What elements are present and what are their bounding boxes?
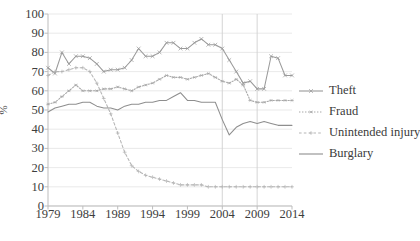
series-line	[48, 39, 292, 89]
x-axis-tick-label: 2009	[245, 208, 270, 221]
data-point-marker	[109, 88, 113, 91]
data-point-marker	[206, 185, 210, 189]
data-point-marker	[130, 58, 134, 62]
y-axis-tick-label: 70	[32, 65, 45, 78]
data-point-marker	[158, 177, 162, 181]
legend-swatch-plus-icon	[298, 127, 324, 139]
data-point-marker	[199, 74, 203, 77]
y-axis-tick-label: 40	[32, 123, 45, 136]
data-point-marker	[53, 101, 57, 104]
x-axis-tick-labels: 19791984198919941999200420092014	[48, 208, 292, 228]
data-point-marker	[234, 78, 238, 81]
data-point-marker	[193, 183, 197, 187]
data-point-marker	[255, 185, 259, 189]
data-point-marker	[74, 66, 78, 70]
x-axis-tick-label: 1999	[175, 208, 200, 221]
x-axis-tick-label: 1979	[36, 208, 61, 221]
data-point-marker	[144, 173, 148, 177]
x-axis-tick-label: 1984	[70, 208, 95, 221]
y-axis-tick-label: 30	[32, 142, 45, 155]
data-point-marker	[60, 70, 64, 74]
data-point-marker	[158, 78, 162, 81]
data-point-marker	[116, 131, 120, 135]
data-point-marker	[227, 58, 231, 62]
legend-swatch-asterisk-icon	[298, 106, 324, 118]
data-point-marker	[137, 47, 141, 51]
data-point-marker	[269, 185, 273, 189]
plot-area	[48, 14, 292, 206]
series-line	[48, 93, 292, 135]
data-point-marker	[283, 185, 287, 189]
data-point-marker	[95, 89, 99, 92]
y-axis-tick-label: 60	[32, 85, 45, 98]
y-axis-tick-labels: 0102030405060708090100	[8, 14, 44, 206]
data-point-marker	[151, 175, 155, 179]
data-point-marker	[165, 179, 169, 183]
data-point-marker	[193, 76, 197, 79]
data-point-marker	[206, 72, 210, 75]
series-line	[48, 74, 292, 105]
data-point-marker	[186, 183, 190, 187]
legend-label: Theft	[329, 84, 356, 97]
data-point-marker	[67, 89, 71, 92]
data-point-marker	[309, 110, 313, 113]
data-point-marker	[116, 86, 120, 89]
data-point-marker	[60, 95, 64, 98]
data-point-marker	[88, 70, 92, 74]
y-axis-tick-label: 50	[32, 104, 45, 117]
data-point-marker	[67, 68, 71, 72]
data-point-marker	[74, 84, 78, 87]
legend-label: Unintended injury	[329, 126, 420, 139]
legend-swatch-x-icon	[298, 85, 324, 97]
x-axis-tick-label: 2014	[280, 208, 305, 221]
y-axis-tick-label: 80	[32, 46, 45, 59]
data-point-marker	[179, 183, 183, 187]
data-point-marker	[193, 41, 197, 45]
data-point-marker	[269, 99, 273, 102]
data-point-marker	[290, 185, 294, 189]
data-point-marker	[165, 74, 169, 77]
data-point-marker	[172, 181, 176, 185]
legend-label: Burglary	[329, 147, 373, 160]
data-point-marker	[262, 185, 266, 189]
data-point-marker	[262, 101, 266, 104]
y-axis-tick-label: 90	[32, 27, 45, 40]
data-point-marker	[81, 66, 85, 70]
data-point-marker	[109, 112, 113, 116]
data-point-marker	[290, 99, 294, 102]
legend-item-unintended-injury[interactable]: Unintended injury	[298, 122, 414, 143]
data-point-marker	[123, 88, 127, 91]
data-point-marker	[151, 82, 155, 85]
legend-item-theft[interactable]: Theft	[298, 80, 414, 101]
y-axis-tick-label: 20	[32, 161, 45, 174]
series-burglary	[48, 93, 292, 135]
x-axis-tick-label: 2004	[210, 208, 235, 221]
y-axis-tick-label: 100	[25, 8, 44, 21]
legend-label: Fraud	[329, 105, 358, 118]
legend-item-fraud[interactable]: Fraud	[298, 101, 414, 122]
data-point-marker	[102, 88, 106, 91]
data-point-marker	[144, 84, 148, 87]
chart-legend: TheftFraudUnintended injuryBurglary	[298, 80, 414, 164]
x-axis-tick-label: 1989	[105, 208, 130, 221]
x-axis-tick-label: 1994	[140, 208, 165, 221]
data-point-marker	[234, 185, 238, 189]
data-point-marker	[95, 81, 99, 85]
data-point-marker	[227, 185, 231, 189]
data-point-marker	[213, 185, 217, 189]
data-point-marker	[88, 89, 92, 92]
y-axis-tick-label: 10	[32, 181, 45, 194]
data-point-marker	[130, 89, 134, 92]
data-point-marker	[102, 97, 106, 101]
data-point-marker	[241, 185, 245, 189]
plot-svg	[48, 14, 292, 206]
data-point-marker	[172, 76, 176, 79]
legend-item-burglary[interactable]: Burglary	[298, 143, 414, 164]
data-point-marker	[220, 185, 224, 189]
data-point-marker	[123, 150, 127, 154]
data-point-marker	[67, 62, 71, 66]
data-point-marker	[276, 185, 280, 189]
data-point-marker	[248, 185, 252, 189]
data-point-marker	[95, 62, 99, 66]
